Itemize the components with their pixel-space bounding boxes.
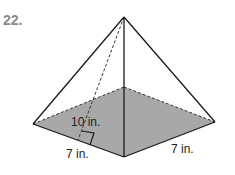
slant-height-label: 10 in. <box>71 115 100 129</box>
base-side-left-label: 7 in. <box>66 147 89 161</box>
base-side-right-label: 7 in. <box>171 142 194 156</box>
pyramid-diagram: 10 in. 7 in. 7 in. <box>0 0 235 175</box>
